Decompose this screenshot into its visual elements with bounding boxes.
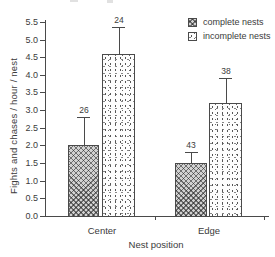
y-tick <box>40 198 45 199</box>
error-bar-incomplete-edge <box>226 78 227 103</box>
sample-size-label-complete-edge: 43 <box>179 140 203 150</box>
y-tick <box>40 75 45 76</box>
y-tick-label: 1.0 <box>16 176 38 186</box>
bar-incomplete-edge <box>209 103 242 217</box>
y-tick <box>40 92 45 93</box>
x-axis-title: Nest position <box>116 239 196 250</box>
y-tick <box>40 216 45 217</box>
y-tick-label: 0.0 <box>16 211 38 221</box>
bar-incomplete-center <box>102 54 135 217</box>
scan-artifact <box>70 0 78 2</box>
y-tick-label: 4.5 <box>16 52 38 62</box>
sample-size-label-incomplete-edge: 38 <box>214 66 238 76</box>
error-cap-complete-edge <box>185 152 198 153</box>
y-axis-title: Fights and chases / hour / nest <box>8 58 19 194</box>
error-bar-complete-center <box>84 117 85 145</box>
legend-label-incomplete-nests: incomplete nests <box>203 31 271 41</box>
bar-complete-center <box>68 145 99 217</box>
y-tick <box>40 40 45 41</box>
category-label-center: Center <box>72 225 132 236</box>
y-tick <box>40 181 45 182</box>
y-tick-label: 1.5 <box>16 158 38 168</box>
legend-item-incomplete-nests: incomplete nests <box>188 31 271 41</box>
y-tick-label: 2.5 <box>16 123 38 133</box>
y-tick <box>40 22 45 23</box>
category-label-edge: Edge <box>179 225 239 236</box>
error-bar-complete-edge <box>191 152 192 163</box>
sample-size-label-incomplete-center: 24 <box>107 15 131 25</box>
y-tick <box>40 57 45 58</box>
y-tick <box>40 128 45 129</box>
x-tick <box>264 216 265 220</box>
x-tick <box>155 216 156 220</box>
y-tick <box>40 163 45 164</box>
error-cap-incomplete-center <box>112 27 125 28</box>
crosshatch-swatch-icon <box>188 18 197 27</box>
y-tick-label: 3.5 <box>16 87 38 97</box>
legend-label-complete-nests: complete nests <box>203 17 264 27</box>
bar-complete-edge <box>175 163 207 217</box>
bar-chart-figure: 0.00.51.01.52.02.53.03.54.04.55.05.52643… <box>0 0 275 257</box>
legend: complete nests incomplete nests <box>188 17 271 45</box>
y-tick-label: 0.5 <box>16 193 38 203</box>
y-axis-line <box>45 20 46 217</box>
y-tick <box>40 145 45 146</box>
dots-swatch-icon <box>188 32 197 41</box>
error-cap-complete-center <box>77 117 90 118</box>
y-tick-label: 4.0 <box>16 70 38 80</box>
error-cap-incomplete-edge <box>219 78 232 79</box>
sample-size-label-complete-center: 26 <box>72 105 96 115</box>
legend-item-complete-nests: complete nests <box>188 17 271 27</box>
y-tick <box>40 110 45 111</box>
scan-artifact <box>107 0 113 3</box>
y-tick-label: 5.5 <box>16 17 38 27</box>
y-tick-label: 5.0 <box>16 35 38 45</box>
y-tick-label: 3.0 <box>16 105 38 115</box>
error-bar-incomplete-center <box>119 27 120 54</box>
y-tick-label: 2.0 <box>16 140 38 150</box>
